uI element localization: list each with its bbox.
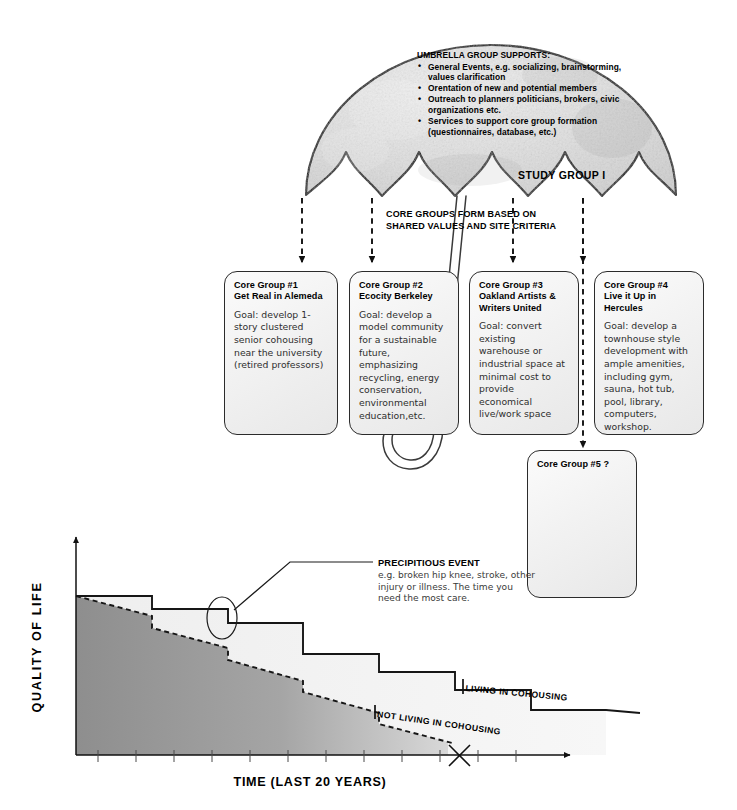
core-group-subtitle: Get Real in Alemeda [234,291,328,302]
precipitious-event-annotation: PRECIPITIOUS EVENT e.g. broken hip knee,… [378,558,538,605]
annotation-heading: PRECIPITIOUS EVENT [378,558,538,568]
umbrella-supports-title: UMBRELLA GROUP SUPPORTS: [417,50,632,61]
study-group-label: STUDY GROUP I [518,169,606,181]
core-group-title: Core Group #5 ? [537,459,627,470]
diagram-canvas: UMBRELLA GROUP SUPPORTS: General Events,… [0,0,737,810]
core-group-box-4[interactable]: Core Group #4 Live it Up in Hercules Goa… [594,271,704,435]
chart-y-axis-label: QUALITY OF LIFE [30,567,44,727]
core-group-box-2[interactable]: Core Group #2 Ecocity Berkeley Goal: dev… [349,271,459,435]
annotation-body: e.g. broken hip knee, stroke, other inju… [378,570,538,605]
core-group-title: Core Group #2 [359,280,449,291]
core-group-box-3[interactable]: Core Group #3 Oakland Artists & Writers … [469,271,579,435]
umbrella-bullet: Outreach to planners politicians, broker… [417,94,632,115]
core-group-goal: Goal: develop 1-story clustered senior c… [234,309,328,372]
umbrella-bullet: Services to support core group formation… [417,116,632,137]
umbrella-supports-list: General Events, e.g. socializing, brains… [417,62,632,138]
umbrella-bullet: Orentation of new and potential members [417,83,632,94]
core-group-subtitle: Ecocity Berkeley [359,291,449,302]
umbrella-supports-text: UMBRELLA GROUP SUPPORTS: General Events,… [417,50,632,138]
core-group-subtitle: Oakland Artists & Writers United [479,291,569,314]
core-group-box-1[interactable]: Core Group #1 Get Real in Alemeda Goal: … [224,271,338,435]
umbrella-bullet: General Events, e.g. socializing, brains… [417,62,632,83]
core-group-box-5[interactable]: Core Group #5 ? [527,450,637,598]
core-group-subtitle: Live it Up in Hercules [604,291,694,314]
core-group-title: Core Group #1 [234,280,328,291]
core-group-goal: Goal: develop a townhouse style developm… [604,320,694,433]
core-group-goal: Goal: convert existing warehouse or indu… [479,320,569,421]
core-groups-form-label: CORE GROUPS FORM BASED ON SHARED VALUES … [386,209,576,232]
chart-x-axis-label: TIME (LAST 20 YEARS) [180,775,440,789]
core-group-title: Core Group #4 [604,280,694,291]
core-group-goal: Goal: develop a model community for a su… [359,309,449,422]
core-group-title: Core Group #3 [479,280,569,291]
